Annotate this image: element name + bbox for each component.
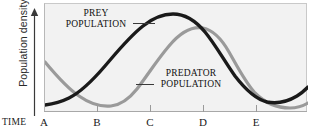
- x-axis-tick-label: E: [246, 116, 266, 128]
- x-axis-tick: [256, 105, 257, 112]
- x-axis-tick: [97, 105, 98, 112]
- x-axis-tick: [203, 105, 204, 112]
- x-axis-tick-label: C: [140, 116, 160, 128]
- y-axis-label: Population density: [17, 0, 29, 87]
- predator-prey-figure: Population density PREY POPULATION PREDA…: [0, 0, 319, 133]
- prey-population-annotation: PREY POPULATION: [58, 8, 134, 29]
- x-axis-line: [44, 111, 307, 112]
- prey-label-line1: PREY: [83, 8, 108, 18]
- prey-label-line2: POPULATION: [66, 19, 127, 29]
- predator-label-leader-line: [136, 84, 154, 85]
- y-axis-arrow-icon: [30, 8, 39, 116]
- predator-population-annotation: PREDATOR POPULATION: [152, 68, 230, 89]
- prey-label-leader-line: [133, 23, 155, 24]
- x-axis-tick-label: B: [87, 116, 107, 128]
- predator-label-line1: PREDATOR: [166, 68, 217, 78]
- predator-label-line2: POPULATION: [161, 79, 222, 89]
- x-axis-tick-label: D: [193, 116, 213, 128]
- x-axis-tick-label: A: [34, 116, 54, 128]
- x-axis-label: TIME: [2, 117, 26, 127]
- x-axis-tick: [150, 105, 151, 112]
